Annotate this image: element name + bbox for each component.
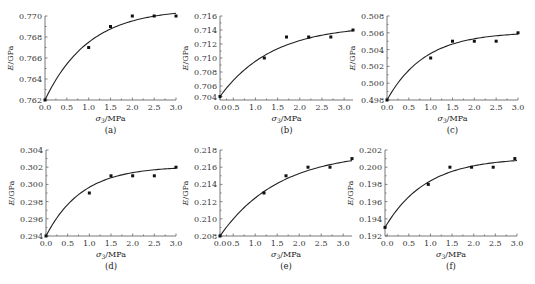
- panel-label: (d): [105, 261, 117, 271]
- x-tick-label: 1.5: [271, 239, 284, 248]
- y-tick-label: 0.706: [194, 82, 217, 91]
- y-tick-label: 0.192: [359, 232, 382, 241]
- x-tick-label: 0.0: [214, 103, 227, 112]
- x-tick-label: 1.5: [271, 103, 284, 112]
- y-tick-label: 0.716: [194, 12, 217, 21]
- x-tick-label: 3.0: [512, 103, 525, 112]
- y-tick-label: 0.708: [194, 68, 217, 77]
- x-tick-label: 0.5: [402, 239, 415, 248]
- x-tick-label: 1.5: [104, 103, 117, 112]
- data-point: [87, 46, 90, 49]
- x-tick-label: 2.5: [148, 103, 161, 112]
- data-point: [492, 166, 495, 169]
- data-point: [386, 99, 389, 102]
- y-tick-label: 0.200: [359, 163, 382, 172]
- subplot-d: 0.2940.2960.2980.3000.3020.3040.00.51.01…: [7, 146, 182, 271]
- x-axis-label: σ3/MPa: [436, 250, 466, 260]
- data-point: [285, 174, 288, 177]
- data-point: [219, 235, 222, 238]
- data-point: [153, 174, 156, 177]
- data-point: [329, 36, 332, 39]
- data-point: [427, 183, 430, 186]
- x-axis-label: σ3/MPa: [272, 114, 302, 124]
- y-axis-label: E/GPa: [348, 45, 357, 71]
- x-axis-label: σ3/MPa: [96, 114, 126, 124]
- x-axis-label: σ3/MPa: [271, 250, 301, 260]
- x-tick-label: 0.0: [214, 239, 227, 248]
- x-tick-label: 2.0: [293, 103, 306, 112]
- y-axis-label: E/GPa: [6, 45, 15, 71]
- data-point: [470, 166, 473, 169]
- data-point: [351, 157, 354, 160]
- fit-curve: [387, 34, 518, 100]
- subplot-a: 0.7620.7640.7660.7680.7700.00.51.01.52.0…: [6, 12, 182, 135]
- x-tick-label: 1.0: [83, 239, 96, 248]
- y-tick-label: 0.508: [361, 12, 384, 21]
- y-axis-label: E/GPa: [181, 180, 190, 206]
- data-point: [448, 166, 451, 169]
- fit-curve: [220, 31, 353, 97]
- data-point: [429, 57, 432, 60]
- data-point: [307, 166, 310, 169]
- x-tick-label: 2.0: [293, 239, 306, 248]
- data-point: [131, 15, 134, 18]
- x-tick-label: 2.0: [126, 103, 139, 112]
- x-axis-label: σ3/MPa: [438, 114, 468, 124]
- data-point: [263, 192, 266, 195]
- fit-curve: [46, 168, 176, 236]
- x-tick-label: 1.0: [424, 239, 437, 248]
- subplot-e: 0.2080.2100.2120.2140.2160.2180.00.51.01…: [181, 146, 354, 271]
- data-point: [263, 57, 266, 60]
- y-tick-label: 0.770: [19, 12, 42, 21]
- y-tick-label: 0.196: [359, 198, 382, 207]
- x-tick-label: 0.0: [381, 103, 394, 112]
- y-tick-label: 0.714: [194, 26, 217, 35]
- x-tick-label: 0.5: [227, 103, 240, 112]
- y-tick-label: 0.506: [361, 29, 384, 38]
- data-point: [451, 40, 454, 43]
- y-tick-label: 0.300: [20, 180, 43, 189]
- x-tick-label: 1.0: [424, 103, 437, 112]
- y-tick-label: 0.296: [20, 215, 43, 224]
- y-tick-label: 0.304: [20, 146, 43, 155]
- y-tick-label: 0.298: [20, 198, 43, 207]
- data-point: [473, 40, 476, 43]
- x-tick-label: 0.0: [381, 239, 394, 248]
- y-axis-label: E/GPa: [181, 45, 190, 71]
- data-point: [45, 235, 48, 238]
- fit-curve: [220, 161, 352, 236]
- x-tick-label: 1.5: [446, 103, 459, 112]
- y-axis-label: E/GPa: [346, 180, 355, 206]
- data-point: [307, 36, 310, 39]
- x-tick-label: 2.0: [467, 239, 480, 248]
- data-point: [352, 29, 355, 32]
- data-point: [44, 99, 47, 102]
- panel-label: (f): [446, 261, 456, 271]
- data-point: [110, 174, 113, 177]
- y-tick-label: 0.502: [361, 62, 384, 71]
- data-point: [175, 166, 178, 169]
- x-axis-label: σ3/MPa: [96, 250, 126, 260]
- x-tick-label: 0.5: [61, 239, 74, 248]
- x-tick-label: 1.5: [105, 239, 118, 248]
- y-tick-label: 0.504: [361, 46, 384, 55]
- x-tick-label: 0.5: [402, 103, 415, 112]
- y-tick-label: 0.764: [19, 75, 42, 84]
- y-tick-label: 0.198: [359, 180, 382, 189]
- panel-label: (a): [105, 125, 117, 135]
- x-tick-label: 0.5: [227, 239, 240, 248]
- data-point: [175, 15, 178, 18]
- subplot-b: 0.7040.7060.7080.7100.7120.7140.7160.00.…: [181, 12, 355, 135]
- data-point: [109, 25, 112, 28]
- x-tick-label: 3.0: [170, 103, 183, 112]
- y-tick-label: 0.218: [194, 146, 217, 155]
- x-tick-label: 2.5: [315, 239, 328, 248]
- data-point: [329, 166, 332, 169]
- figure-canvas: 0.7620.7640.7660.7680.7700.00.51.01.52.0…: [0, 0, 535, 284]
- panel-label: (c): [447, 125, 458, 135]
- x-tick-label: 3.0: [170, 239, 183, 248]
- y-axis-label: E/GPa: [7, 180, 16, 206]
- subplot-c: 0.4980.5000.5020.5040.5060.5080.00.51.01…: [348, 12, 524, 135]
- y-tick-label: 0.216: [194, 163, 217, 172]
- x-tick-label: 1.0: [249, 103, 262, 112]
